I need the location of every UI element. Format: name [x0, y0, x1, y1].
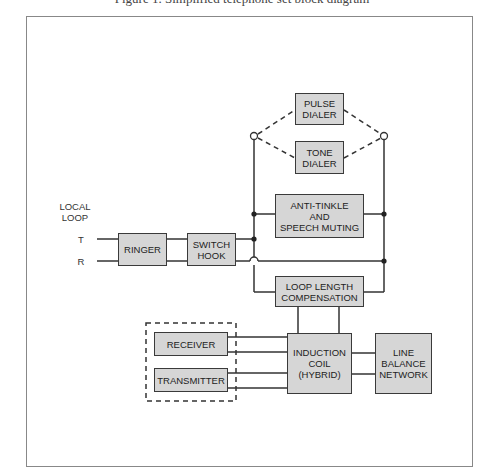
ring-label: R — [75, 256, 87, 267]
wiring-lines — [0, 0, 484, 475]
loop-length-compensation-block: LOOP LENGTH COMPENSATION — [275, 276, 364, 307]
ringer-block: RINGER — [118, 233, 167, 266]
pulse-dialer-block: PULSE DIALER — [295, 93, 344, 125]
induction-coil-block: INDUCTION COIL (HYBRID) — [287, 333, 352, 394]
receiver-block: RECEIVER — [154, 332, 228, 356]
anti-tinkle-block: ANTI-TINKLE AND SPEECH MUTING — [275, 194, 364, 238]
tone-dialer-block: TONE DIALER — [295, 141, 344, 174]
local-loop-label: LOCAL LOOP — [50, 201, 100, 223]
contact-right-icon — [381, 133, 388, 140]
contact-left-icon — [251, 133, 258, 140]
transmitter-block: TRANSMITTER — [154, 368, 228, 392]
tip-label: T — [75, 234, 87, 245]
line-balance-network-block: LINE BALANCE NETWORK — [375, 333, 432, 394]
switch-hook-block: SWITCH HOOK — [187, 233, 236, 266]
